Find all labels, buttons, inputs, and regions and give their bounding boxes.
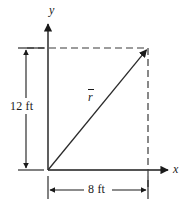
position-vector-arrow — [48, 50, 147, 170]
x-axis-label: x — [173, 163, 178, 175]
vertical-dimension-label: 12 ft — [9, 99, 34, 113]
vector-label: r — [87, 89, 94, 103]
y-axis-label: y — [49, 4, 54, 16]
horizontal-dimension-label: 8 ft — [86, 183, 107, 195]
vector-diagram-figure: y x 12 ft 8 ft r — [0, 0, 186, 217]
vector-label-overbar: r — [88, 89, 93, 103]
